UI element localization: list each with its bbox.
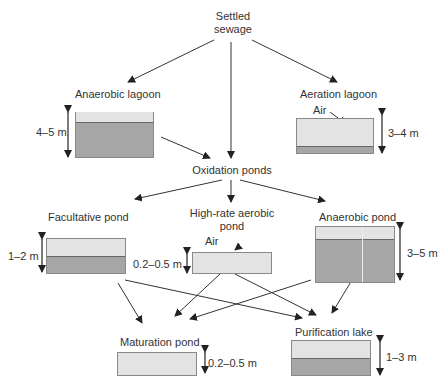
settled-sewage-label: Settled sewage	[214, 10, 252, 36]
maturation-pond-depth: 0.2–0.5 m	[208, 357, 257, 370]
anaerobic-lagoon-tank	[75, 112, 154, 158]
high-rate-label-line1: High-rate aerobic	[190, 207, 274, 220]
maturation-pond-tank	[117, 352, 197, 376]
flow-arrows	[0, 0, 444, 386]
high-rate-aerobic-pond-label: High-rate aerobic pond	[190, 207, 274, 233]
purification-lake-tank	[291, 340, 371, 376]
maturation-pond-label: Maturation pond	[120, 336, 200, 349]
facultative-pond-tank	[46, 238, 126, 274]
purification-lake-label: Purification lake	[295, 326, 373, 339]
aeration-lagoon-tank	[296, 118, 374, 154]
anaerobic-lagoon-label: Anaerobic lagoon	[75, 88, 161, 101]
aeration-lagoon-depth: 3–4 m	[388, 127, 419, 140]
high-rate-air-label: Air	[205, 235, 218, 248]
anaerobic-lagoon-depth: 4–5 m	[36, 126, 67, 139]
oxidation-ponds-label: Oxidation ponds	[192, 164, 272, 177]
facultative-pond-depth: 1–2 m	[8, 250, 39, 263]
facultative-pond-label: Facultative pond	[48, 211, 129, 224]
settled-sewage-line1: Settled	[214, 10, 252, 23]
aeration-lagoon-label: Aeration lagoon	[300, 88, 377, 101]
high-rate-aerobic-pond-tank	[192, 252, 272, 274]
anaerobic-pond-label: Anaerobic pond	[319, 211, 396, 224]
anaerobic-pond-depth: 3–5 m	[407, 247, 438, 260]
settled-sewage-line2: sewage	[214, 23, 252, 36]
high-rate-aerobic-pond-depth: 0.2–0.5 m	[133, 258, 182, 271]
aeration-lagoon-air-label: Air	[313, 104, 326, 117]
anaerobic-pond-tank	[315, 226, 395, 283]
high-rate-label-line2: pond	[190, 220, 274, 233]
purification-lake-depth: 1–3 m	[386, 351, 417, 364]
